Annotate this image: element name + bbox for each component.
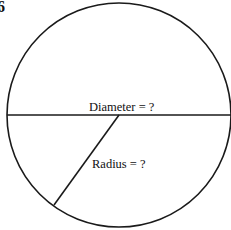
radius-label: Radius = ?	[92, 157, 146, 171]
figure-number: 6	[0, 0, 5, 15]
diameter-label: Diameter = ?	[89, 100, 155, 114]
circle-diagram: 6 Diameter = ? Radius = ?	[0, 0, 231, 230]
